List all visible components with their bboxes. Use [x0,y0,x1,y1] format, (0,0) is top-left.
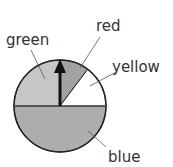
label-yellow: yellow [112,58,160,76]
label-red: red [96,17,121,35]
label-green: green [6,31,49,49]
label-blue: blue [108,148,140,166]
segment-blue [14,106,106,152]
leader-red [80,37,100,68]
spinner-diagram: green red yellow blue [0,0,173,167]
